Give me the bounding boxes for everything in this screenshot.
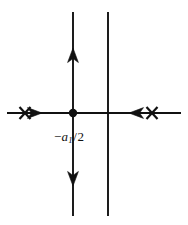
breakaway-point-label: −a1/2 bbox=[54, 130, 84, 145]
label-minus-sign: − bbox=[54, 129, 62, 144]
breakaway-point-dot bbox=[69, 109, 77, 117]
root-locus-figure: −a1/2 bbox=[0, 0, 188, 225]
label-denominator: 2 bbox=[78, 129, 85, 144]
diagram-canvas bbox=[0, 0, 188, 225]
